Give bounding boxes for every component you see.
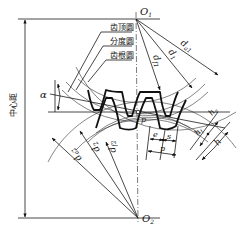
gear-teeth bbox=[88, 90, 186, 130]
label-alpha: α bbox=[40, 89, 47, 100]
gear-mesh-diagram: 齿顶圆 分度圆 齿根圆 中心距 O1 O2 da1 d1 df1 da2 d2 … bbox=[0, 0, 241, 231]
label-d1: d1 bbox=[166, 47, 181, 61]
label-p: p bbox=[160, 144, 165, 153]
label-e: e bbox=[153, 130, 158, 139]
pitch-point bbox=[136, 110, 140, 114]
label-da1: da1 bbox=[178, 38, 195, 55]
label-o2: O2 bbox=[142, 213, 154, 225]
label-s: s bbox=[167, 132, 171, 141]
label-dedendum-circle: 齿根圆 bbox=[110, 50, 134, 60]
label-pitch-circle: 分度圆 bbox=[110, 36, 134, 46]
label-df1: df1 bbox=[149, 54, 164, 69]
tooth-dims bbox=[146, 126, 178, 160]
label-ha: ha bbox=[207, 105, 220, 117]
label-addendum-circle: 齿顶圆 bbox=[110, 23, 134, 32]
label-da2: da2 bbox=[67, 147, 84, 164]
label-d2: d2 bbox=[88, 140, 103, 154]
labels: 齿顶圆 分度圆 齿根圆 中心距 O1 O2 da1 d1 df1 da2 d2 … bbox=[8, 6, 223, 225]
label-df2: df2 bbox=[105, 139, 120, 154]
label-pitch-point: p bbox=[141, 115, 146, 124]
upper-radials bbox=[136, 19, 218, 90]
label-h: h bbox=[212, 136, 223, 147]
label-o1: O1 bbox=[140, 6, 152, 18]
label-center-distance: 中心距 bbox=[8, 93, 18, 117]
